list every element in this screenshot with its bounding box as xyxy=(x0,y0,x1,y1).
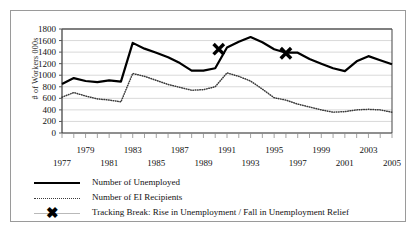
y-tick-label: 1200 xyxy=(18,59,56,69)
x-mark-icon: ✖ xyxy=(46,204,59,221)
y-tick-label: 400 xyxy=(18,105,56,115)
x-tick-label-bottom: 1997 xyxy=(289,158,307,168)
x-tick-label-bottom: 1981 xyxy=(100,158,118,168)
x-tick-label-top: 1983 xyxy=(124,145,142,155)
legend-row-ei-recipients: Number of EI Recipients xyxy=(30,191,400,206)
y-tick-label: 1000 xyxy=(18,70,56,80)
plot-area: # of Workers 000s 0200400600800100012001… xyxy=(18,18,398,143)
chart-svg xyxy=(18,18,398,143)
x-tick-label-top: 2003 xyxy=(359,145,377,155)
x-tick-label-top: 1987 xyxy=(171,145,189,155)
x-tick-label-bottom: 1985 xyxy=(147,158,165,168)
legend-label-tracking-break: Tracking Break: Rise in Unemployment / F… xyxy=(92,207,349,217)
x-tick-label-top: 1979 xyxy=(77,145,95,155)
legend-row-unemployed: Number of Unemployed xyxy=(30,176,400,191)
chart-figure: # of Workers 000s 0200400600800100012001… xyxy=(0,0,418,234)
y-tick-label: 1600 xyxy=(18,36,56,46)
x-tick-label-bottom: 1993 xyxy=(242,158,260,168)
legend-row-tracking-break: ✖ Tracking Break: Rise in Unemployment /… xyxy=(30,206,400,221)
solid-line-key xyxy=(30,176,82,191)
legend-label-ei-recipients: Number of EI Recipients xyxy=(92,192,182,202)
tracking-break-marker-1 xyxy=(214,44,224,54)
x-tick-label-bottom: 1977 xyxy=(53,158,71,168)
chart-legend: Number of Unemployed Number of EI Recipi… xyxy=(30,176,400,222)
x-tick-label-bottom: 2001 xyxy=(336,158,354,168)
x-tick-label-top: 1999 xyxy=(312,145,330,155)
series-line-unemployed xyxy=(62,37,392,84)
y-tick-label: 200 xyxy=(18,116,56,126)
x-tick-label-top: 1995 xyxy=(265,145,283,155)
y-tick-label: 800 xyxy=(18,82,56,92)
x-marker-key: ✖ xyxy=(30,206,82,221)
x-tick-label-bottom: 2005 xyxy=(383,158,401,168)
x-tick-label-bottom: 1989 xyxy=(194,158,212,168)
y-tick-label: 0 xyxy=(18,128,56,138)
series-line-ei-recipients xyxy=(62,73,392,112)
y-tick-label: 1400 xyxy=(18,47,56,57)
y-tick-label: 1800 xyxy=(18,24,56,34)
y-tick-label: 600 xyxy=(18,93,56,103)
x-tick-label-top: 1991 xyxy=(218,145,236,155)
legend-label-unemployed: Number of Unemployed xyxy=(92,177,180,187)
